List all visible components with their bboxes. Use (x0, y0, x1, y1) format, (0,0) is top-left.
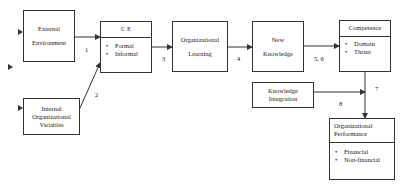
edge-label-4: 4 (237, 55, 240, 62)
competence-title: Competence (340, 21, 390, 37)
node-label: Integration (269, 95, 298, 103)
edge-label-8: 8 (339, 100, 342, 107)
competence-node: Competence Domain Thrust (339, 20, 391, 72)
ce-title: C E (101, 22, 151, 38)
competence-item-thrust: Thrust (340, 48, 390, 56)
ce-item-informal: Informal (101, 50, 151, 58)
node-label: External (38, 25, 60, 33)
node-label: Organizational (32, 113, 71, 121)
node-label: Learning (188, 50, 211, 58)
edge-label-2: 2 (95, 91, 98, 98)
external-environment-node: External Environment (23, 10, 75, 62)
node-label: Environment (32, 39, 66, 47)
competence-items: Domain Thrust (340, 40, 390, 56)
organizational-learning-node: Organizational Learning (172, 21, 228, 72)
org-performance-title: Organizational Performance (330, 119, 394, 143)
org-performance-items: Financial Non-financial (330, 148, 394, 164)
node-label: Knowledge (263, 50, 293, 58)
input-arrowhead-icon (8, 64, 13, 70)
edge-label-7: 7 (375, 85, 378, 92)
competence-item-domain: Domain (340, 40, 390, 48)
node-label: Internal (41, 105, 61, 113)
edge-label-1: 1 (85, 46, 88, 53)
edge-label-3: 3 (162, 55, 165, 62)
performance-item-nonfinancial: Non-financial (330, 156, 394, 164)
node-label: Knowledge (268, 87, 298, 95)
knowledge-integration-node: Knowledge Integration (252, 82, 314, 108)
edge-label-5-6: 5, 6 (314, 55, 324, 62)
ce-items: Formal Informal (101, 42, 151, 58)
node-label: New (272, 36, 284, 44)
organizational-performance-node: Organizational Performance Financial Non… (329, 118, 395, 180)
node-label: Performance (334, 130, 390, 138)
node-label: Variables (39, 121, 63, 129)
ce-item-formal: Formal (101, 42, 151, 50)
performance-item-financial: Financial (330, 148, 394, 156)
ce-node: C E Formal Informal (100, 21, 152, 73)
node-label: Organizational (181, 36, 220, 44)
new-knowledge-node: New Knowledge (252, 21, 304, 72)
internal-organizational-variables-node: Internal Organizational Variables (23, 98, 80, 135)
node-label: Organizational (334, 122, 390, 130)
